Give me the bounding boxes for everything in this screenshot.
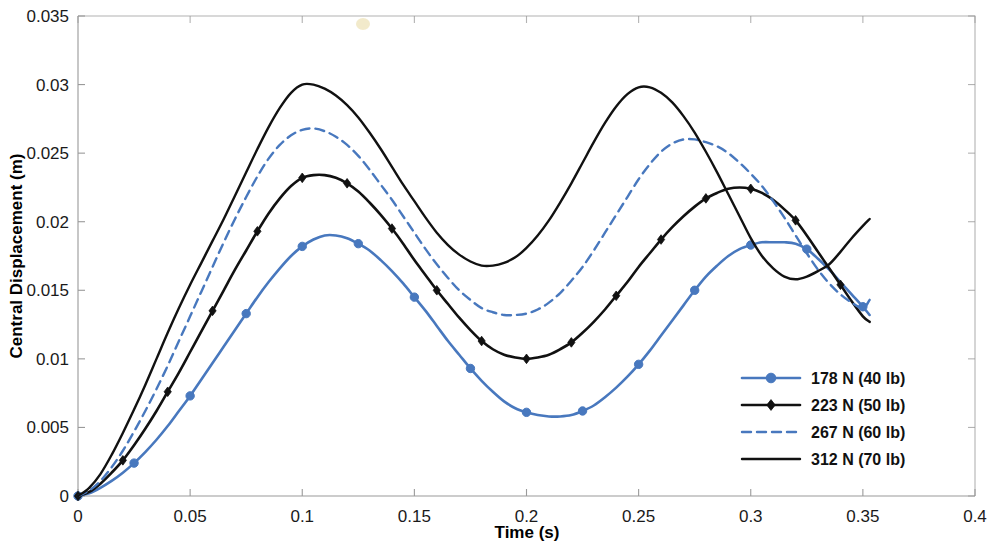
x-axis-title: Time (s) xyxy=(495,523,560,542)
y-tick-label: 0.005 xyxy=(26,418,69,437)
x-tick-label: 0.25 xyxy=(622,507,655,526)
y-tick-label: 0.02 xyxy=(36,213,69,232)
y-tick-label: 0.035 xyxy=(26,7,69,26)
series-marker xyxy=(410,293,418,301)
x-tick-label: 0.05 xyxy=(174,507,207,526)
series-marker xyxy=(634,360,642,368)
x-tick-label: 0.3 xyxy=(739,507,763,526)
y-tick-label: 0 xyxy=(60,487,69,506)
series-marker xyxy=(354,239,362,247)
x-tick-label: 0.15 xyxy=(398,507,431,526)
y-tick-label: 0.025 xyxy=(26,144,69,163)
x-tick-label: 0.4 xyxy=(963,507,987,526)
series-marker xyxy=(130,459,138,467)
legend-label: 312 N (70 lb) xyxy=(811,451,905,468)
y-tick-label: 0.01 xyxy=(36,350,69,369)
series-marker xyxy=(690,286,698,294)
scan-smudge-artifact xyxy=(356,18,370,30)
series-marker xyxy=(466,364,474,372)
x-tick-label: 0 xyxy=(73,507,82,526)
y-tick-label: 0.015 xyxy=(26,281,69,300)
x-tick-label: 0.1 xyxy=(290,507,314,526)
legend-label: 267 N (60 lb) xyxy=(811,424,905,441)
y-axis-title: Central Displacement (m) xyxy=(7,154,26,359)
chart-canvas: 00.050.10.150.20.250.30.350.4 00.0050.01… xyxy=(0,0,994,544)
chart-figure: 00.050.10.150.20.250.30.350.4 00.0050.01… xyxy=(0,0,994,544)
series-marker xyxy=(186,392,194,400)
legend-label: 178 N (40 lb) xyxy=(811,370,905,387)
y-tick-label: 0.03 xyxy=(36,76,69,95)
legend-label: 223 N (50 lb) xyxy=(811,397,905,414)
legend-marker-circle xyxy=(766,373,776,383)
series-marker xyxy=(242,309,250,317)
series-marker xyxy=(578,407,586,415)
series-marker xyxy=(298,242,306,250)
x-tick-label: 0.35 xyxy=(846,507,879,526)
series-marker xyxy=(522,408,530,416)
